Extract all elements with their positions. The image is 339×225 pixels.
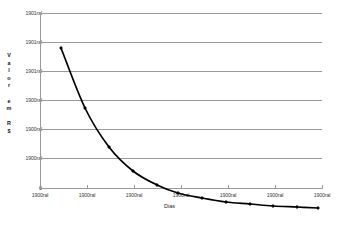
y-tick-label: 0	[8, 185, 42, 191]
y-tick-label: 1900ral	[8, 126, 42, 132]
x-tick-mark	[275, 185, 276, 189]
gridline	[40, 100, 322, 101]
y-tick-label: 1901ral	[8, 10, 42, 16]
y-axis-title-letter: m	[3, 105, 15, 113]
x-tick-label: 1900ral	[67, 192, 107, 198]
x-tick-mark	[134, 185, 135, 189]
y-axis-title-letter: V	[3, 52, 15, 60]
y-axis-title-spacer	[3, 113, 15, 121]
y-axis-title-letter: r	[3, 82, 15, 90]
y-axis-title-letter: a	[3, 60, 15, 68]
gridline	[40, 71, 322, 72]
chart-container: V a l o r e m R $ 1901ral 1901ral 1901ra…	[0, 0, 339, 225]
gridline	[40, 13, 322, 14]
x-tick-mark	[228, 185, 229, 189]
x-tick-mark	[87, 185, 88, 189]
x-tick-mark	[40, 185, 41, 189]
y-tick-label: 1900ral	[8, 155, 42, 161]
y-axis-title-letter: o	[3, 75, 15, 83]
y-axis-title: V a l o r e m R $	[3, 52, 15, 136]
y-tick-label: 1900ral	[8, 97, 42, 103]
y-tick-label: 1901ral	[8, 39, 42, 45]
x-tick-label: 1900ral	[255, 192, 295, 198]
x-tick-mark	[181, 185, 182, 189]
x-tick-label: 1900ral	[208, 192, 248, 198]
x-axis-title: Dias	[0, 203, 339, 209]
x-tick-mark	[322, 185, 323, 189]
gridline	[40, 158, 322, 159]
gridline	[40, 42, 322, 43]
y-tick-label: 1901ral	[8, 68, 42, 74]
plot-area	[40, 13, 322, 188]
gridline	[40, 129, 322, 130]
x-tick-label: 1900ral	[302, 192, 339, 198]
x-tick-label: 1900ral	[161, 192, 201, 198]
x-tick-label: 1900ral	[114, 192, 154, 198]
x-tick-label: 1900ral	[20, 192, 60, 198]
